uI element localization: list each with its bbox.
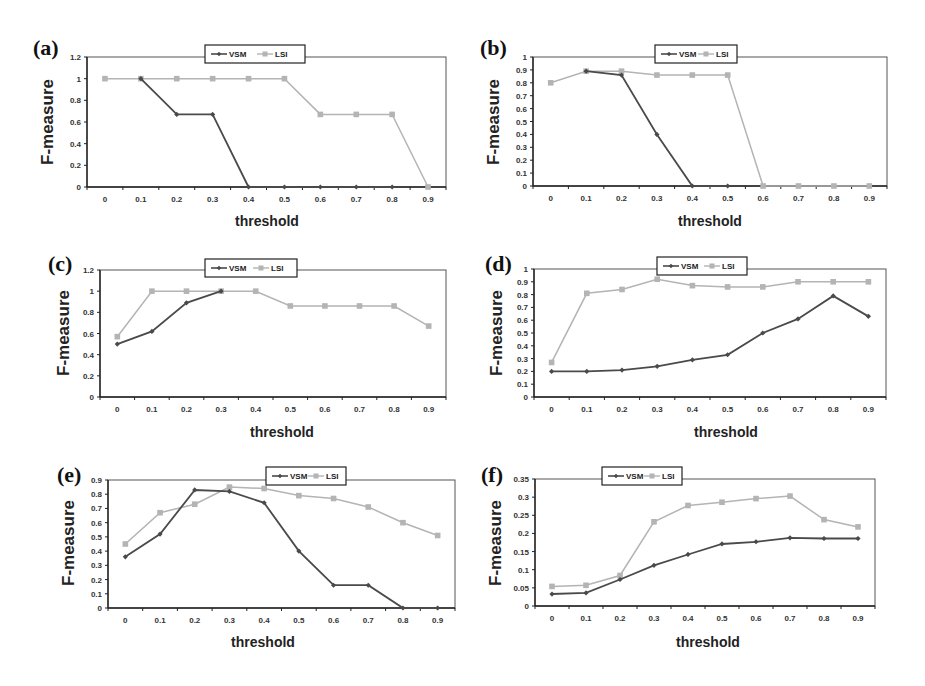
y-tick-label: 0.05 [513,584,529,593]
vsm-marker [583,590,588,595]
vsm-marker [685,552,690,557]
vsm-marker [719,541,724,546]
x-tick-label: 0.5 [716,614,728,623]
legend-lsi-marker [650,474,655,479]
y-tick-label: 0.3 [518,493,530,502]
vsm-marker [753,539,758,544]
y-axis-label: F-measure [486,498,506,588]
legend: VSMLSI [602,467,682,485]
y-tick-label: 0.35 [513,475,529,484]
y-tick-label: 0.2 [518,529,530,538]
y-tick-label: 0.15 [513,548,529,557]
vsm-marker [787,535,792,540]
y-tick-label: 0.1 [518,566,530,575]
lsi-marker [583,583,589,589]
vsm-marker [651,563,656,568]
vsm-marker [821,536,826,541]
x-tick-label: 0 [550,614,555,623]
panel-label: (f) [481,462,503,488]
lsi-marker [821,517,827,523]
x-tick-label: 0.2 [614,614,626,623]
x-tick-label: 0.6 [750,614,762,623]
lsi-marker [787,493,793,499]
series-lsi [549,493,861,589]
legend-lsi-label: LSI [662,472,674,481]
lsi-marker [685,503,691,509]
y-tick-label: 0.25 [513,511,529,520]
x-tick-label: 0.9 [852,614,864,623]
x-tick-label: 0.1 [580,614,592,623]
x-tick-label: 0.4 [682,614,694,623]
vsm-marker [855,536,860,541]
x-tick-label: 0.8 [818,614,830,623]
x-tick-label: 0.7 [784,614,796,623]
lsi-marker [719,499,725,505]
vsm-marker [549,591,554,596]
x-tick-label: 0.3 [648,614,660,623]
x-axis-label: threshold [668,634,748,650]
series-vsm [549,535,860,596]
lsi-marker [651,519,657,525]
lsi-marker [549,584,555,590]
y-tick-label: 0 [525,602,530,611]
chart-svg: 00.050.10.150.20.250.30.3500.10.20.30.40… [0,0,925,686]
legend-vsm-label: VSM [626,472,644,481]
lsi-marker [753,496,759,502]
lsi-marker [855,524,861,530]
